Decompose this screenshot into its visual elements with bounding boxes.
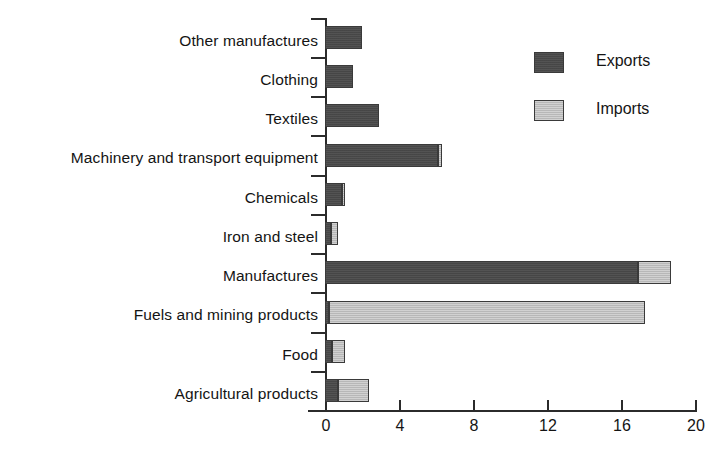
bar-exports-chemicals xyxy=(325,183,342,206)
bar-imports-machinery-and-transport-equipment xyxy=(438,144,442,167)
bar-exports-food xyxy=(325,340,332,363)
x-axis-tick-12 xyxy=(547,400,549,412)
category-label-food: Food xyxy=(282,347,318,363)
category-label-iron-and-steel: Iron and steel xyxy=(223,229,318,245)
bar-exports-machinery-and-transport-equipment xyxy=(325,144,438,167)
bar-imports-chemicals xyxy=(342,183,346,206)
category-label-machinery-transport: Machinery and transport equipment xyxy=(71,150,318,166)
y-axis-tick xyxy=(311,57,325,59)
y-axis-tick xyxy=(311,410,325,412)
y-axis-tick xyxy=(311,175,325,177)
bar-exports-textiles xyxy=(325,104,379,127)
y-axis-tick xyxy=(311,96,325,98)
x-axis-tick-8 xyxy=(473,400,475,412)
x-axis-line xyxy=(308,410,697,412)
category-label-agricultural-products: Agricultural products xyxy=(175,386,318,402)
category-label-chemicals: Chemicals xyxy=(245,190,318,206)
legend-label-imports: Imports xyxy=(596,101,649,117)
x-axis-label-20: 20 xyxy=(687,418,705,434)
y-axis-tick xyxy=(311,18,325,20)
category-label-other-manufactures: Other manufactures xyxy=(179,33,318,49)
y-axis-tick xyxy=(311,371,325,373)
bar-exports-clothing xyxy=(325,65,353,88)
category-label-fuels-mining-products: Fuels and mining products xyxy=(134,307,318,323)
bar-imports-food xyxy=(332,340,345,363)
x-axis-label-12: 12 xyxy=(539,418,557,434)
x-axis-label-8: 8 xyxy=(470,418,479,434)
x-axis-tick-20 xyxy=(695,400,697,412)
y-axis-tick xyxy=(311,292,325,294)
bar-imports-manufactures xyxy=(638,261,671,284)
y-axis-tick xyxy=(311,332,325,334)
x-axis-tick-4 xyxy=(399,400,401,412)
bar-imports-fuels-and-mining-products xyxy=(329,301,645,324)
x-axis-tick-16 xyxy=(621,400,623,412)
x-axis-label-16: 16 xyxy=(613,418,631,434)
y-axis-tick xyxy=(311,135,325,137)
category-label-clothing: Clothing xyxy=(260,72,318,88)
bar-imports-iron-and-steel xyxy=(331,222,338,245)
bar-exports-other-manufactures xyxy=(325,26,362,49)
legend-swatch-exports xyxy=(534,52,564,73)
legend-swatch-imports xyxy=(534,100,564,121)
bar-exports-agricultural-products xyxy=(325,379,338,402)
y-axis-tick xyxy=(311,214,325,216)
bar-exports-manufactures xyxy=(325,261,638,284)
x-axis-label-4: 4 xyxy=(396,418,405,434)
bar-chart: Other manufactures Clothing Textiles Mac… xyxy=(0,0,719,472)
x-axis-label-0: 0 xyxy=(322,418,331,434)
bar-imports-agricultural-products xyxy=(338,379,369,402)
legend-label-exports: Exports xyxy=(596,53,650,69)
category-label-textiles: Textiles xyxy=(266,111,318,127)
y-axis-tick xyxy=(311,253,325,255)
category-label-manufactures: Manufactures xyxy=(223,268,318,284)
